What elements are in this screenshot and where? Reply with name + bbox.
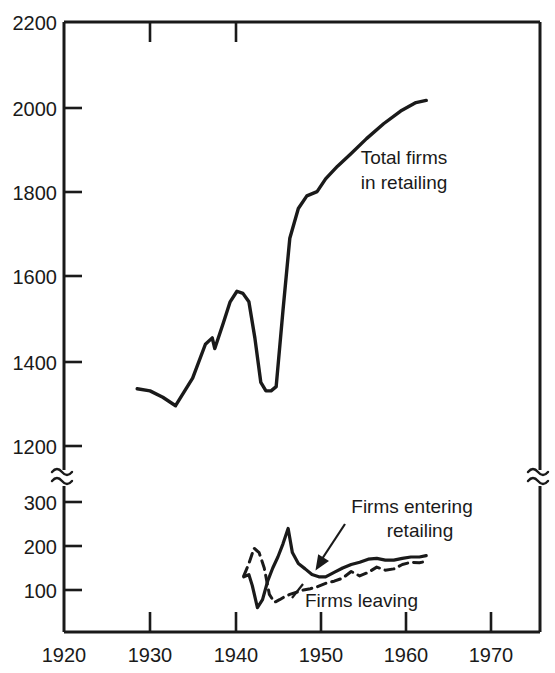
firms-leaving-leader bbox=[292, 584, 303, 598]
x-label-1940: 1940 bbox=[214, 644, 259, 666]
axis-break-right-upper-squiggle bbox=[528, 469, 548, 475]
chart-figure: 2200 2000 1800 1600 1400 1200 300 200 10… bbox=[0, 0, 555, 673]
x-label-1920: 1920 bbox=[42, 644, 87, 666]
y-label-2200: 2200 bbox=[13, 12, 58, 34]
y-ticks-lower bbox=[64, 502, 82, 590]
annotation-firms-leaving: Firms leaving bbox=[305, 590, 418, 611]
y-label-1400: 1400 bbox=[13, 352, 58, 374]
annotation-firms-entering-line2: retailing bbox=[387, 520, 454, 541]
x-label-1930: 1930 bbox=[128, 644, 173, 666]
annotation-total-firms-line1: Total firms bbox=[361, 147, 448, 168]
x-label-1970: 1970 bbox=[469, 644, 514, 666]
y-tick-labels: 2200 2000 1800 1600 1400 1200 300 200 10… bbox=[13, 12, 58, 602]
chart-svg: 2200 2000 1800 1600 1400 1200 300 200 10… bbox=[0, 0, 555, 673]
axis-frame bbox=[64, 22, 540, 632]
y-label-300: 300 bbox=[24, 492, 57, 514]
axis-break-marks bbox=[52, 469, 548, 484]
leader-line bbox=[292, 584, 303, 598]
y-label-100: 100 bbox=[24, 580, 57, 602]
x-tick-labels: 1920 1930 1940 1950 1960 1970 bbox=[42, 644, 514, 666]
x-label-1950: 1950 bbox=[299, 644, 344, 666]
x-label-1960: 1960 bbox=[384, 644, 429, 666]
annotation-total-firms-line2: in retailing bbox=[361, 172, 448, 193]
y-label-200: 200 bbox=[24, 536, 57, 558]
firms-entering-arrow bbox=[317, 524, 345, 568]
y-label-1200: 1200 bbox=[13, 436, 58, 458]
y-label-2000: 2000 bbox=[13, 98, 58, 120]
axis-break-left-lower-squiggle bbox=[52, 478, 72, 484]
axis-break-left-upper-squiggle bbox=[52, 469, 72, 475]
y-ticks-upper bbox=[64, 108, 82, 446]
y-label-1800: 1800 bbox=[13, 182, 58, 204]
axis-break-right-lower-squiggle bbox=[528, 478, 548, 484]
y-label-1600: 1600 bbox=[13, 266, 58, 288]
arrow-shaft bbox=[320, 524, 345, 562]
arrow-head bbox=[317, 556, 327, 568]
series-annotations: Total firms in retailing Firms entering … bbox=[305, 147, 473, 611]
annotation-firms-entering-line1: Firms entering bbox=[351, 496, 472, 517]
